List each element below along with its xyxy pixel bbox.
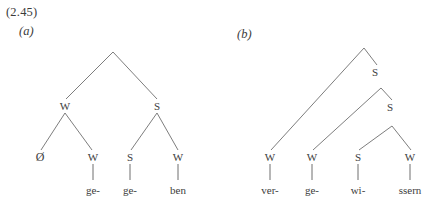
tree-a-leaf-2-label: W bbox=[88, 152, 98, 163]
tree-b-leaf-3-word: wi- bbox=[351, 185, 366, 196]
branch-b-root-right bbox=[364, 48, 377, 65]
tree-b-leaf-4-word: ssern bbox=[399, 185, 422, 196]
branch-b-s2-left bbox=[359, 126, 392, 150]
metrical-tree-figure: (2.45) (a) (b) bbox=[0, 0, 435, 205]
branch-b-root-left bbox=[271, 48, 364, 150]
tree-a-leaf-4-label: W bbox=[173, 152, 183, 163]
branch-s-right bbox=[157, 113, 178, 150]
tree-a-leaf-3-word: ge- bbox=[123, 185, 137, 196]
tree-b-leaf-1-label: W bbox=[265, 152, 275, 163]
branch-b-s1-left bbox=[313, 88, 381, 150]
branch-root-right bbox=[113, 52, 157, 99]
tree-b-leaf-2-word: ge- bbox=[305, 185, 319, 196]
tree-a-leaf-1-label: Ø bbox=[36, 151, 45, 163]
tree-b-leaf-2-label: W bbox=[307, 152, 317, 163]
tree-a-leaf-3-label: S bbox=[127, 152, 133, 163]
branch-s-left bbox=[131, 113, 157, 150]
tree-b-leaf-3-label: S bbox=[355, 152, 361, 163]
tree-a-node-right: S bbox=[154, 101, 160, 112]
tree-b-node-s1: S bbox=[372, 67, 378, 78]
branch-w-left bbox=[41, 113, 65, 150]
tree-a-leaf-2-word: ge- bbox=[86, 185, 100, 196]
tree-b-leaf-1-word: ver- bbox=[261, 185, 279, 196]
branch-root-left bbox=[66, 52, 113, 99]
branch-b-s1-right bbox=[381, 88, 392, 100]
tree-b-node-s2: S bbox=[387, 102, 393, 113]
tree-b-leaf-4-label: W bbox=[405, 152, 415, 163]
branch-b-s2-right bbox=[392, 126, 411, 150]
tree-a-node-left: W bbox=[60, 101, 70, 112]
tree-a-leaf-4-word: ben bbox=[170, 185, 186, 196]
branch-w-right bbox=[65, 113, 92, 150]
